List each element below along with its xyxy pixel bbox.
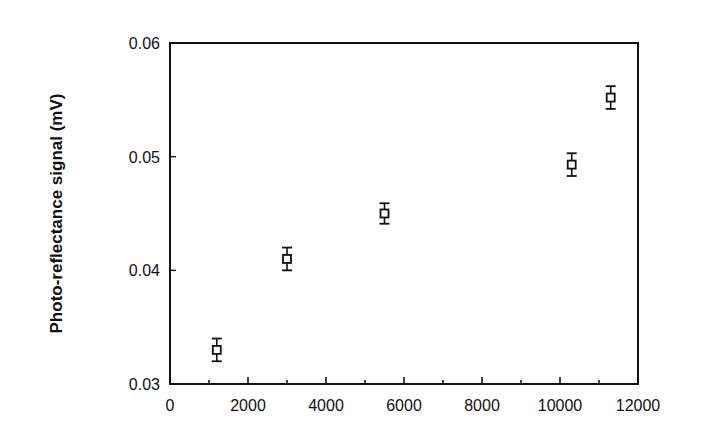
y-tick-label: 0.06: [129, 35, 160, 52]
chart: 0200040006000800010000120000.030.040.050…: [0, 0, 705, 437]
data-point-marker: [607, 94, 615, 102]
plot-frame: [170, 43, 638, 384]
y-tick-label: 0.04: [129, 262, 160, 279]
y-tick-label: 0.03: [129, 376, 160, 393]
data-point-marker: [568, 161, 576, 169]
x-tick-label: 0: [166, 397, 175, 414]
data-point-marker: [283, 255, 291, 263]
x-tick-label: 4000: [308, 397, 344, 414]
y-axis-title: Photo-reflectance signal (mV): [47, 94, 66, 334]
x-tick-label: 10000: [538, 397, 583, 414]
plot-area: 0200040006000800010000120000.030.040.050…: [0, 0, 705, 437]
x-tick-label: 8000: [464, 397, 500, 414]
x-tick-label: 2000: [230, 397, 266, 414]
x-tick-label: 12000: [616, 397, 661, 414]
y-tick-label: 0.05: [129, 149, 160, 166]
data-point-marker: [213, 346, 221, 354]
x-tick-label: 6000: [386, 397, 422, 414]
data-point-marker: [381, 210, 389, 218]
